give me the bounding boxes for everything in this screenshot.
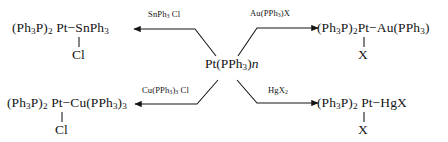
reagent-cu-label: Cu(PPh3)3 Cl (142, 86, 189, 95)
product-au-formula: (Ph3P)2Pt−Au(PPh3) (317, 21, 430, 35)
product-cu-ligand: Cl (55, 123, 68, 137)
arrow-to-au-product (238, 28, 318, 56)
product-sn-formula: (Ph3P)2 Pt−SnPh3 (12, 21, 109, 35)
arrow-to-sn-product (134, 29, 216, 56)
product-sn-ligand: Cl (72, 48, 85, 62)
reaction-scheme: Pt(PPh3)n (Ph3P)2 Pt−SnPh3 Cl SnPh3 Cl (… (0, 0, 448, 142)
product-hg-formula: (Ph3P)2 Pt−HgX (317, 96, 407, 110)
central-species-label: Pt(PPh3)n (205, 57, 258, 71)
reagent-sn-label: SnPh3 Cl (148, 10, 180, 19)
product-au-ligand: X (358, 48, 368, 62)
product-hg-ligand: X (358, 123, 368, 137)
reagent-hg-label: HgX2 (268, 86, 288, 95)
reagent-au-label: Au(PPh3)X (250, 9, 290, 18)
product-cu-formula: (Ph3P)2 Pt−Cu(PPh3)3 (7, 96, 127, 110)
